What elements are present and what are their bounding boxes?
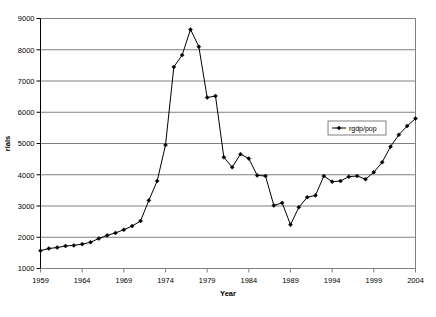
chart-background [0,0,436,317]
chart-container: 100020003000400050006000700080009000 195… [0,0,436,317]
chart-legend: rgdp/pop [328,121,386,135]
x-tick-label: 1959 [32,276,49,285]
y-tick-label: 7000 [18,77,35,86]
x-tick-label: 1989 [282,276,299,285]
y-tick-label: 1000 [18,264,35,273]
x-tick-label: 1994 [324,276,341,285]
x-tick-label: 1964 [74,276,91,285]
x-tick-label: 1969 [115,276,132,285]
y-tick-label: 8000 [18,46,35,55]
x-tick-label: 2004 [407,276,424,285]
y-tick-label: 4000 [18,171,35,180]
y-tick-label: 5000 [18,139,35,148]
y-tick-label: 2000 [18,233,35,242]
x-tick-label: 1979 [199,276,216,285]
x-axis-title: Year [220,289,236,298]
x-tick-label: 1984 [240,276,257,285]
y-tick-label: 9000 [18,14,35,23]
y-tick-label: 6000 [18,108,35,117]
x-tick-label: 1999 [365,276,382,285]
legend-entry-label: rgdp/pop [349,125,377,133]
y-axis-title: rials [3,136,12,151]
x-tick-label: 1974 [157,276,174,285]
line-chart: 100020003000400050006000700080009000 195… [0,0,436,317]
y-tick-label: 3000 [18,202,35,211]
